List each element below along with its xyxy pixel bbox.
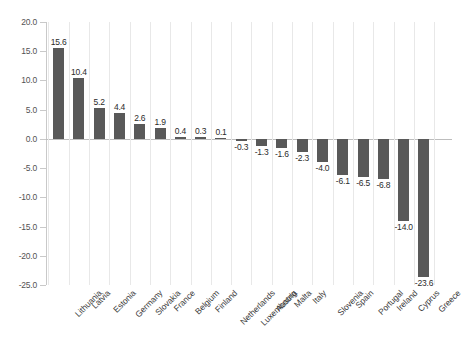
y-axis-tick-label: -10.0 xyxy=(0,192,37,202)
y-axis-tick-label: 10.0 xyxy=(0,75,37,85)
gridline xyxy=(211,22,212,285)
y-axis-tick xyxy=(40,22,46,23)
gridline xyxy=(150,22,151,285)
bar xyxy=(358,139,369,177)
bar xyxy=(378,139,389,179)
y-axis-tick-label: 0.0 xyxy=(0,134,37,144)
y-axis-tick-label: 15.0 xyxy=(0,46,37,56)
y-axis-tick xyxy=(40,197,46,198)
x-axis-category-label: Greece xyxy=(436,288,462,314)
bar-value-label: -6.8 xyxy=(366,180,400,190)
bar xyxy=(215,138,226,139)
bar-value-label: -14.0 xyxy=(387,222,421,232)
gridline xyxy=(333,22,334,285)
x-axis-category-label: Italy xyxy=(311,288,329,306)
y-axis-tick xyxy=(40,285,46,286)
gridline xyxy=(231,22,232,285)
y-axis-tick xyxy=(40,256,46,257)
bar-value-label: 15.6 xyxy=(42,37,76,47)
bar-value-label: 0.1 xyxy=(204,127,238,137)
bar-value-label: 4.4 xyxy=(102,102,136,112)
gridline xyxy=(69,22,70,285)
y-axis-tick-label: 20.0 xyxy=(0,17,37,27)
bar xyxy=(418,139,429,277)
bar-value-label: 10.4 xyxy=(62,67,96,77)
gridline xyxy=(48,22,49,285)
gridline xyxy=(130,22,131,285)
y-axis-tick xyxy=(40,110,46,111)
gridline xyxy=(414,22,415,285)
bar-value-label: -2.3 xyxy=(285,153,319,163)
bar-value-label: -4.0 xyxy=(305,163,339,173)
y-axis-line xyxy=(46,22,47,285)
gridline xyxy=(394,22,395,285)
bar xyxy=(195,137,206,139)
y-axis-tick xyxy=(40,139,46,140)
gridline xyxy=(170,22,171,285)
gridline xyxy=(191,22,192,285)
bar-value-label: -23.6 xyxy=(407,278,441,288)
y-axis-tick xyxy=(40,80,46,81)
zero-baseline xyxy=(46,139,452,140)
y-axis-tick-label: -20.0 xyxy=(0,251,37,261)
y-axis-tick xyxy=(40,168,46,169)
y-axis-tick-label: -25.0 xyxy=(0,280,37,290)
y-axis-tick-label: -15.0 xyxy=(0,222,37,232)
gridline xyxy=(89,22,90,285)
y-axis-tick-label: 5.0 xyxy=(0,105,37,115)
gridline xyxy=(434,22,435,285)
y-axis-tick xyxy=(40,51,46,52)
y-axis-tick xyxy=(40,227,46,228)
x-axis-category-label: Cyprus xyxy=(415,288,441,314)
bar xyxy=(73,78,84,139)
bar xyxy=(236,139,247,141)
bar xyxy=(94,108,105,138)
y-axis-tick-label: -5.0 xyxy=(0,163,37,173)
bar xyxy=(175,137,186,139)
bar xyxy=(53,48,64,139)
gridline xyxy=(353,22,354,285)
gridline xyxy=(109,22,110,285)
gridline xyxy=(373,22,374,285)
